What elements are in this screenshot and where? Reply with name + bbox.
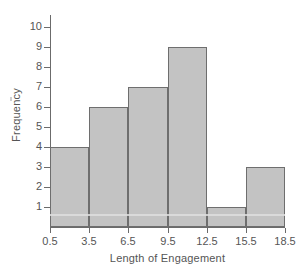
x-axis-title: Length of Engagement — [50, 252, 285, 264]
x-tick-label-9.5: 9.5 — [153, 235, 183, 247]
x-tick-label-6.5: 6.5 — [113, 235, 143, 247]
y-tick-label-8: 8 — [16, 61, 42, 72]
histogram-bar — [246, 167, 285, 227]
x-tick-3.5 — [89, 228, 90, 233]
y-tick-label-6: 6 — [16, 101, 42, 112]
plot-area — [50, 15, 285, 227]
y-tick-label-7: 7 — [16, 81, 42, 92]
histogram-bar — [89, 107, 128, 227]
y-tick-label-5: 5 — [16, 121, 42, 132]
x-tick-9.5 — [168, 228, 169, 233]
histogram-bar — [50, 147, 89, 227]
histogram-bar — [128, 87, 168, 227]
x-tick-12.5 — [207, 228, 208, 233]
x-tick-label-0.5: 0.5 — [35, 235, 65, 247]
y-tick-label-4: 4 — [16, 141, 42, 152]
y-tick-label-1: 1 — [16, 201, 42, 212]
x-tick-18.5 — [285, 228, 286, 233]
histogram-figure: Frequency 12345678910 0.53.56.59.512.515… — [0, 0, 301, 276]
x-tick-label-12.5: 12.5 — [192, 235, 222, 247]
y-tick-label-3: 3 — [16, 161, 42, 172]
x-tick-label-18.5: 18.5 — [270, 235, 300, 247]
x-tick-label-15.5: 15.5 — [231, 235, 261, 247]
x-tick-15.5 — [246, 228, 247, 233]
y-tick-label-2: 2 — [16, 181, 42, 192]
x-tick-label-3.5: 3.5 — [74, 235, 104, 247]
y-tick-label-10: 10 — [16, 21, 42, 32]
histogram-bar — [207, 207, 246, 227]
scan-speck — [10, 97, 12, 101]
y-tick-label-9: 9 — [16, 41, 42, 52]
histogram-bar — [168, 47, 207, 227]
x-tick-0.5 — [50, 228, 51, 233]
y-axis-title: Frequency — [6, 0, 26, 230]
x-tick-6.5 — [128, 228, 129, 233]
